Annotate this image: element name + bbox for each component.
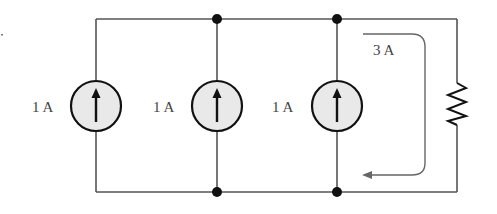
node-bottom-1 bbox=[212, 187, 222, 197]
total-current-label: 3 A bbox=[373, 42, 394, 58]
node-bottom-2 bbox=[332, 187, 342, 197]
current-source-3 bbox=[312, 81, 362, 131]
source-3-label: 1 A bbox=[272, 99, 293, 115]
node-top-2 bbox=[332, 14, 342, 24]
stray-mark bbox=[1, 34, 3, 36]
arrow-left-icon bbox=[362, 171, 372, 179]
source-1-label: 1 A bbox=[32, 99, 53, 115]
source-2-label: 1 A bbox=[153, 99, 174, 115]
resistor-icon bbox=[448, 83, 466, 125]
current-source-2 bbox=[192, 81, 242, 131]
circuit-diagram: 1 A 1 A 1 A 3 A bbox=[0, 0, 497, 214]
current-source-1 bbox=[71, 81, 121, 131]
node-top-1 bbox=[212, 14, 222, 24]
